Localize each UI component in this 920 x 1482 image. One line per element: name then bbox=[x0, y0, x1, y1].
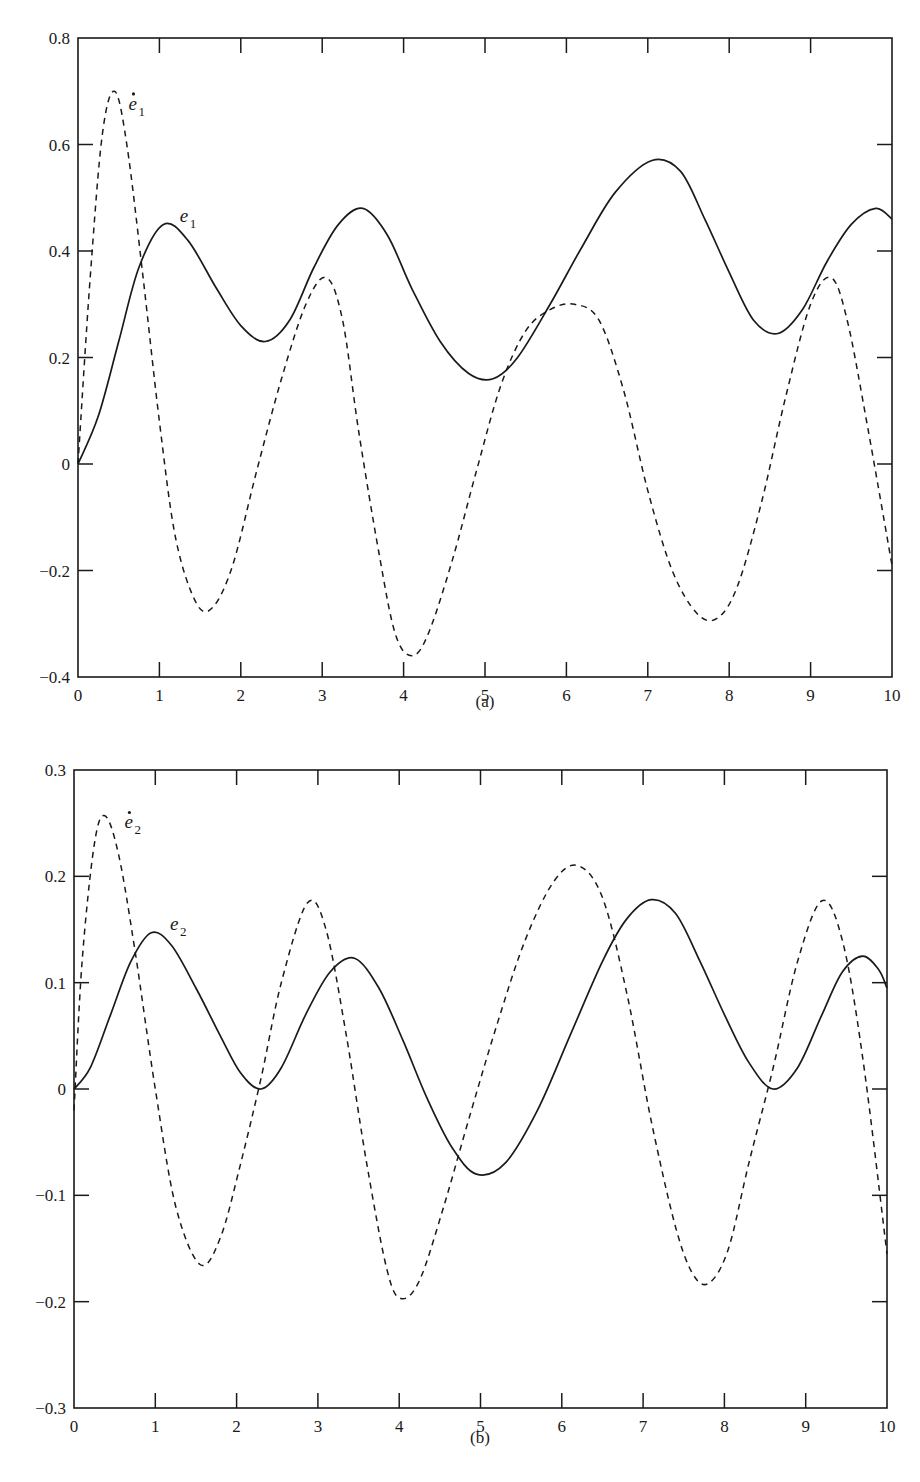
x-tick-label: 10 bbox=[879, 1417, 896, 1436]
series-label-e2-dot: e bbox=[124, 811, 132, 832]
x-tick-label: 6 bbox=[558, 1417, 567, 1436]
x-tick-label: 1 bbox=[151, 1417, 160, 1436]
series-label-subscript: 2 bbox=[180, 924, 187, 939]
chart-panel-a: 012345678910−0.4−0.200.20.40.60.8e1e1 bbox=[39, 29, 900, 705]
plot-frame-b bbox=[74, 770, 887, 1408]
x-tick-label: 7 bbox=[639, 1417, 648, 1436]
series-label-e1-dot: e bbox=[128, 93, 136, 114]
x-tick-label: 4 bbox=[399, 686, 408, 705]
x-tick-label: 6 bbox=[562, 686, 571, 705]
series-line-e2-dot bbox=[74, 815, 887, 1298]
x-tick-label: 1 bbox=[155, 686, 164, 705]
chart-caption-a: (a) bbox=[476, 692, 495, 711]
x-tick-label: 3 bbox=[314, 1417, 323, 1436]
figure: 012345678910−0.4−0.200.20.40.60.8e1e1 (a… bbox=[0, 0, 920, 1482]
x-tick-label: 0 bbox=[70, 1417, 79, 1436]
x-tick-label: 8 bbox=[720, 1417, 729, 1436]
series-label-subscript: 1 bbox=[190, 216, 197, 231]
y-tick-label: 0.2 bbox=[49, 349, 70, 368]
series-label-e1: e bbox=[180, 205, 188, 226]
plot-frame-a bbox=[78, 38, 892, 677]
x-tick-label: 2 bbox=[237, 686, 246, 705]
y-tick-label: −0.2 bbox=[35, 1293, 66, 1312]
x-tick-label: 9 bbox=[806, 686, 815, 705]
series-label-subscript: 2 bbox=[134, 822, 141, 837]
series-line-e2 bbox=[74, 900, 887, 1175]
series-label-e2: e bbox=[170, 913, 178, 934]
derivative-dot-icon bbox=[132, 92, 135, 95]
x-tick-label: 9 bbox=[801, 1417, 810, 1436]
x-tick-label: 2 bbox=[232, 1417, 241, 1436]
y-tick-label: −0.2 bbox=[39, 562, 70, 581]
y-tick-label: 0.8 bbox=[49, 29, 70, 48]
y-tick-label: 0 bbox=[58, 1080, 67, 1099]
y-tick-label: 0.1 bbox=[45, 974, 66, 993]
y-tick-label: 0.6 bbox=[49, 136, 70, 155]
y-tick-label: −0.3 bbox=[35, 1399, 66, 1418]
derivative-dot-icon bbox=[128, 811, 131, 814]
x-tick-label: 7 bbox=[644, 686, 653, 705]
y-tick-label: 0 bbox=[62, 455, 71, 474]
y-tick-label: −0.1 bbox=[35, 1186, 66, 1205]
y-tick-label: 0.4 bbox=[49, 242, 71, 261]
x-tick-label: 0 bbox=[74, 686, 83, 705]
x-tick-label: 8 bbox=[725, 686, 734, 705]
series-line-e1-dot bbox=[78, 91, 892, 656]
x-tick-label: 10 bbox=[884, 686, 901, 705]
x-tick-label: 4 bbox=[395, 1417, 404, 1436]
y-tick-label: −0.4 bbox=[39, 668, 70, 687]
chart-caption-b: (b) bbox=[470, 1428, 490, 1447]
series-label-subscript: 1 bbox=[138, 104, 145, 119]
x-tick-label: 3 bbox=[318, 686, 327, 705]
series-line-e1 bbox=[78, 159, 892, 464]
y-tick-label: 0.2 bbox=[45, 867, 66, 886]
y-tick-label: 0.3 bbox=[45, 761, 66, 780]
chart-panel-b: 012345678910−0.3−0.2−0.100.10.20.3e2e2 bbox=[35, 761, 895, 1436]
